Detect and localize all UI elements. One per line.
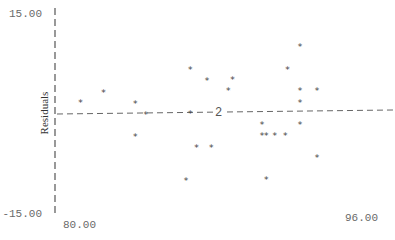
data-point-star: * xyxy=(188,65,193,75)
data-point-star: * xyxy=(188,109,193,119)
residual-scatter-plot: 15.00 -15.00 80.00 96.00 Residuals 2 ***… xyxy=(0,0,395,240)
data-point-star: * xyxy=(184,176,189,186)
data-point-star: * xyxy=(264,175,269,185)
data-point-star: * xyxy=(133,99,138,109)
data-point-star: * xyxy=(298,120,303,130)
y-tick-top: 15.00 xyxy=(9,8,42,20)
data-point-star: * xyxy=(285,65,290,75)
data-point-star: * xyxy=(205,76,210,86)
data-point-star: * xyxy=(78,98,83,108)
data-point-star: * xyxy=(194,143,199,153)
data-point-star: * xyxy=(298,86,303,96)
data-point-star: * xyxy=(226,86,231,96)
data-point-star: * xyxy=(272,131,277,141)
data-points: ************************** xyxy=(78,42,320,186)
x-tick-right: 96.00 xyxy=(345,212,378,224)
data-point-star: * xyxy=(260,120,265,130)
data-point-star: * xyxy=(298,42,303,52)
data-point-star: * xyxy=(315,86,320,96)
data-point-star: * xyxy=(315,153,320,163)
data-point-star: * xyxy=(230,75,235,85)
data-point-star: * xyxy=(144,110,149,120)
data-point-star: * xyxy=(283,131,288,141)
data-point-star: * xyxy=(298,98,303,108)
reference-line-label: 2 xyxy=(215,106,222,120)
y-axis-label: Residuals xyxy=(38,92,50,135)
data-point-star: * xyxy=(209,143,214,153)
data-point-star: * xyxy=(264,131,269,141)
data-point-star: * xyxy=(133,132,138,142)
data-point-star: * xyxy=(101,88,106,98)
y-tick-bottom: -15.00 xyxy=(2,208,42,220)
x-tick-left: 80.00 xyxy=(63,219,96,231)
